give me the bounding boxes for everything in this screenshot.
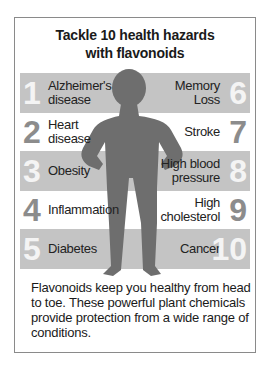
hazard-number-10: 10 [211,230,247,268]
hazard-number-6: 6 [229,74,247,112]
hazard-label-9: Highcholesterol [160,196,220,224]
hazard-label-4: Inflammation [48,203,119,217]
hazard-number-2: 2 [23,113,41,151]
hazard-row-5: 5 Diabetes Cancer 10 [20,230,250,268]
hazard-number-9: 9 [229,191,247,229]
infographic-panel: Tackle 10 health hazards with flavonoids… [14,17,256,353]
hazard-row-1: 1 Alzheimer'sdisease MemoryLoss 6 [20,74,250,112]
hazard-number-8: 8 [229,152,247,190]
hazard-row-4: 4 Inflammation Highcholesterol 9 [20,191,250,229]
hazard-label-7: Stroke [184,125,220,139]
hazard-label-2: Heartdisease [48,118,91,146]
hazard-label-5: Diabetes [48,242,97,256]
hazard-number-5: 5 [23,230,41,268]
hazard-label-6: MemoryLoss [175,79,220,107]
hazard-number-3: 3 [23,152,41,190]
hazard-label-3: Obesity [48,164,90,178]
hazard-number-4: 4 [23,191,41,229]
hazard-number-1: 1 [23,74,41,112]
hazard-number-7: 7 [229,113,247,151]
hazard-label-8: High bloodpressure [161,157,220,185]
description-text: Flavonoids keep you healthy from head to… [31,280,256,340]
hazard-row-2: 2 Heartdisease Stroke 7 [20,113,250,151]
hazard-row-3: 3 Obesity High bloodpressure 8 [20,152,250,190]
hazard-label-1: Alzheimer'sdisease [48,79,111,107]
